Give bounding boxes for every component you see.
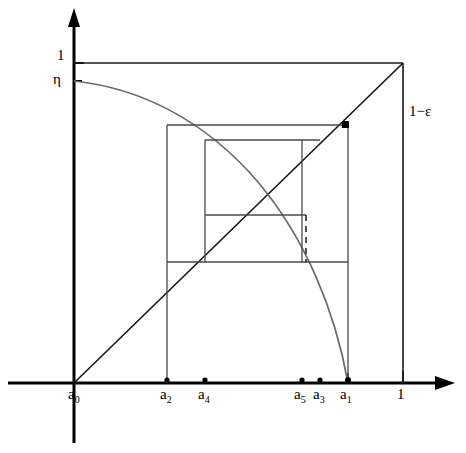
x-label-a5-base: a <box>294 386 301 402</box>
x-label-a5-sub: 5 <box>301 394 306 405</box>
x-label-a2-sub: 2 <box>167 394 172 405</box>
x-label-a4-base: a <box>198 386 205 402</box>
x-label-a4-sub: 4 <box>205 394 210 405</box>
x-label-a0-base: a <box>68 386 75 402</box>
x-axis-dot-a1 <box>345 377 351 383</box>
x-axis-dot-a4 <box>202 377 207 382</box>
x-label-a0: a0 <box>68 387 80 402</box>
y-label-eta: η <box>53 72 61 87</box>
x-label-one: 1 <box>397 387 405 402</box>
x-label-one-base: 1 <box>397 386 405 402</box>
label-one-minus-epsilon: 1−ε <box>409 104 431 119</box>
y-label-one: 1 <box>57 48 65 63</box>
x-axis-dot-a2 <box>164 377 169 382</box>
x-label-a0-sub: 0 <box>75 394 80 405</box>
x-label-a3-sub: 3 <box>320 394 325 405</box>
x-label-a4: a4 <box>198 387 210 402</box>
cobweb-diagram-figure: 1 η 1−ε a0 a2 a4 a5 a3 a1 1 <box>0 0 466 453</box>
diagonal-identity-line <box>74 63 403 383</box>
x-label-a5: a5 <box>294 387 306 402</box>
diagonal-marker-dot <box>342 121 349 128</box>
x-label-a1-sub: 1 <box>347 394 352 405</box>
x-axis-dot-a3 <box>317 377 322 382</box>
vertical-axis-arrowhead <box>68 8 80 27</box>
x-label-a3: a3 <box>313 387 325 402</box>
x-label-a1-base: a <box>340 386 347 402</box>
x-label-a3-base: a <box>313 386 320 402</box>
x-label-a1: a1 <box>340 387 352 402</box>
horizontal-axis-arrowhead <box>435 376 455 390</box>
x-axis-dot-a5 <box>299 377 304 382</box>
axes-group <box>8 8 455 443</box>
third-rectangle <box>205 140 320 262</box>
x-label-a2-base: a <box>160 386 167 402</box>
x-label-a2: a2 <box>160 387 172 402</box>
second-rectangle <box>167 125 348 383</box>
map-curve <box>74 81 348 383</box>
